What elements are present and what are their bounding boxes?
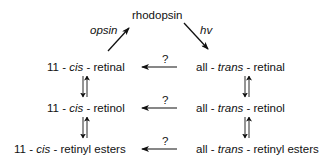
trans-retinal-suffix: - retinal [243,61,285,73]
cis-retinol-suffix: - retinol [83,102,125,114]
cis-retinal-suffix: - retinal [83,61,125,73]
unknown-enzyme-label-1: ? [162,53,168,66]
trans-retinal-node: all - trans - retinal [196,61,285,74]
trans-esters-prefix: all - [196,143,218,155]
trans-retinal-prefix: all - [196,61,218,73]
trans-esters-isomer: trans [218,143,244,155]
hv-label: hv [200,24,212,37]
trans-retinol-suffix: - retinol [243,102,285,114]
trans-retinal-isomer: trans [218,61,244,73]
cis-retinol-prefix: 11 - [47,102,69,114]
cis-retinyl-esters-node: 11 - cis - retinyl esters [14,143,126,156]
unknown-enzyme-label-3: ? [162,135,168,148]
trans-esters-suffix: - retinyl esters [243,143,318,155]
cis-retinal-prefix: 11 - [47,61,69,73]
unknown-enzyme-label-2: ? [162,94,168,107]
cis-retinol-node: 11 - cis - retinol [47,102,125,115]
trans-retinol-node: all - trans - retinol [196,102,285,115]
cis-retinal-isomer: cis [69,61,83,73]
cis-retinol-isomer: cis [69,102,83,114]
rhodopsin-node: rhodopsin [132,9,183,22]
trans-retinyl-esters-node: all - trans - retinyl esters [196,143,319,156]
trans-retinol-isomer: trans [218,102,244,114]
cis-esters-prefix: 11 - [14,143,36,155]
trans-retinol-prefix: all - [196,102,218,114]
cis-esters-suffix: - retinyl esters [50,143,125,155]
cis-esters-isomer: cis [36,143,50,155]
cis-retinal-node: 11 - cis - retinal [47,61,125,74]
opsin-label: opsin [90,24,118,37]
